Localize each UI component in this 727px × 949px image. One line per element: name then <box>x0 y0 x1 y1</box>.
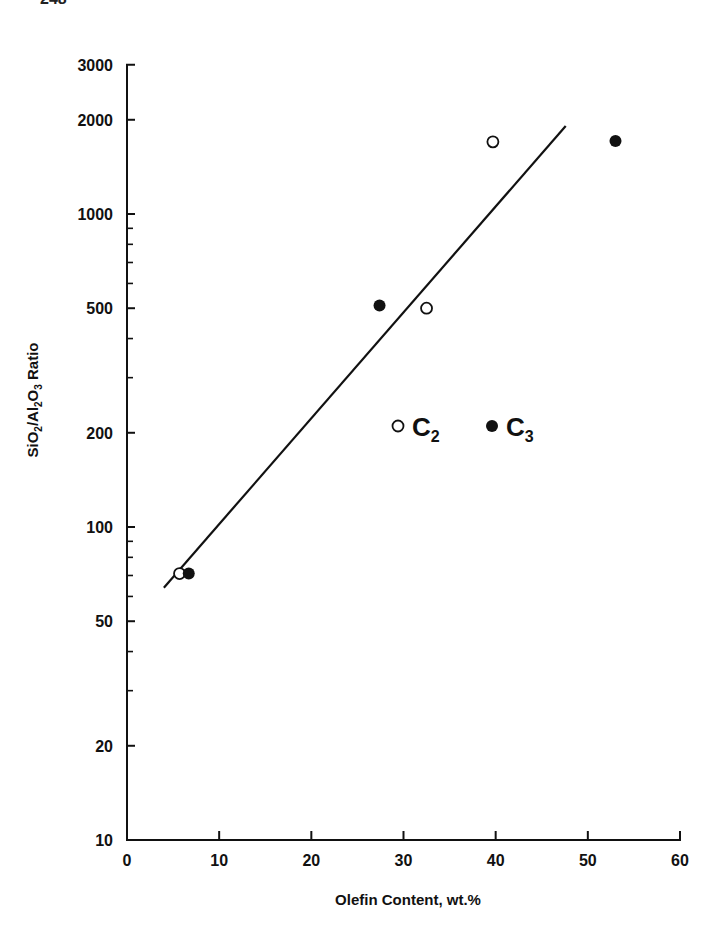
x-tick-label: 30 <box>395 852 413 869</box>
fit-line <box>164 126 566 588</box>
axis-lines <box>127 65 680 840</box>
filled-circle-point-icon <box>609 135 621 147</box>
filled-circle-point-icon <box>374 300 386 312</box>
axes <box>127 65 680 840</box>
x-tick-label: 10 <box>210 852 228 869</box>
filled-circle-point-icon <box>183 568 195 580</box>
x-tick-label: 40 <box>487 852 505 869</box>
legend-c2-marker-icon <box>393 421 404 432</box>
x-axis-ticks: 0102030405060 <box>123 831 689 869</box>
open-circle-point-icon <box>487 136 498 147</box>
y-tick-label: 3000 <box>77 57 113 74</box>
x-tick-label: 0 <box>123 852 132 869</box>
y-tick-label: 10 <box>95 832 113 849</box>
legend-c2-label: C2 <box>412 412 440 445</box>
y-tick-label: 20 <box>95 738 113 755</box>
legend: C2 C3 <box>393 412 534 445</box>
legend-c3-marker-icon <box>486 420 498 432</box>
x-axis-title: Olefin Content, wt.% <box>335 891 481 908</box>
y-tick-label: 50 <box>95 613 113 630</box>
y-tick-label: 200 <box>86 425 113 442</box>
y-tick-label: 1000 <box>77 206 113 223</box>
scatter-chart: 102050100200500100020003000 010203040506… <box>0 0 727 949</box>
legend-c3-label: C3 <box>506 412 534 445</box>
x-tick-label: 20 <box>302 852 320 869</box>
x-tick-label: 50 <box>579 852 597 869</box>
x-tick-label: 60 <box>671 852 689 869</box>
open-circle-point-icon <box>421 303 432 314</box>
data-points <box>174 135 621 579</box>
y-tick-label: 500 <box>86 300 113 317</box>
y-tick-label: 2000 <box>77 112 113 129</box>
y-axis-title: SiO2/Al2O3 Ratio <box>24 342 44 457</box>
regression-line <box>164 126 566 588</box>
y-tick-label: 100 <box>86 519 113 536</box>
